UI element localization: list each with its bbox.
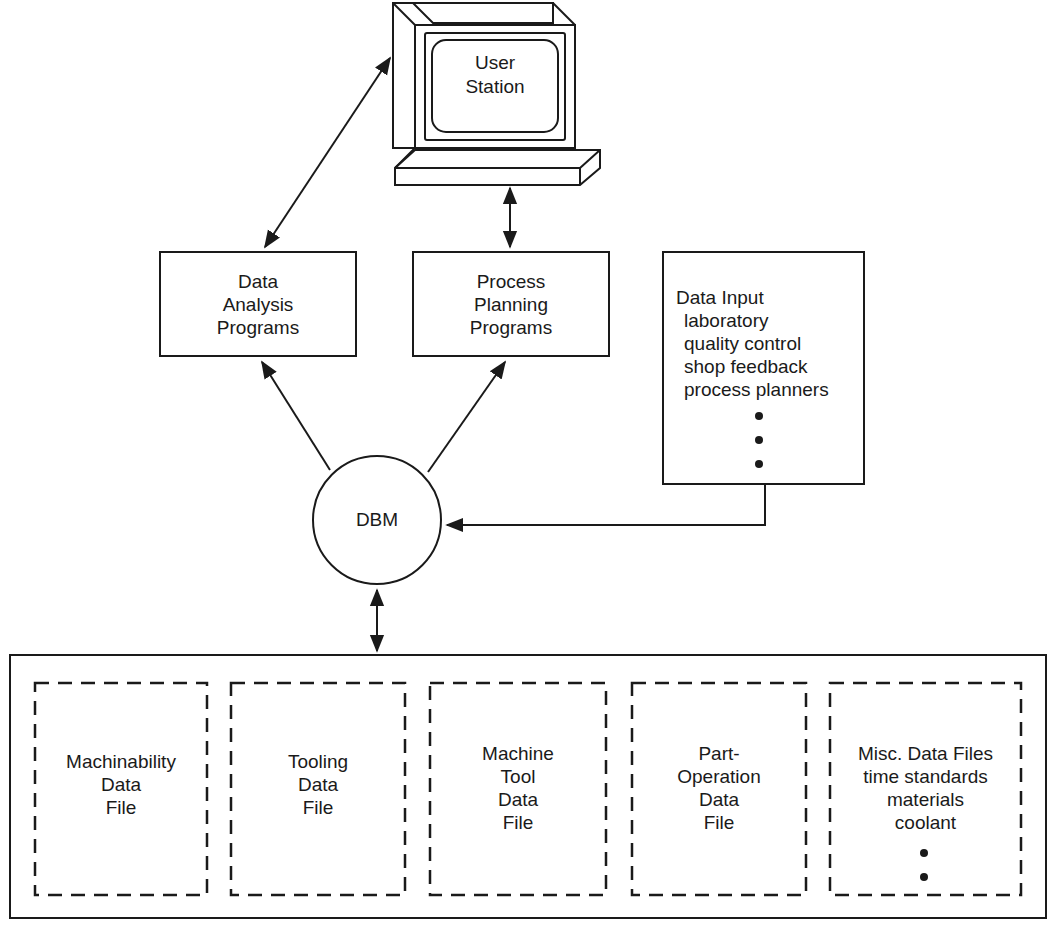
label-line: materials	[830, 788, 1021, 811]
arrow-dbm-to-planning	[428, 362, 505, 472]
machinability-file-label: Machinability Data File	[35, 750, 207, 819]
label-line: Data	[160, 270, 356, 293]
label-line: File	[632, 811, 806, 834]
label-line: User	[432, 51, 558, 75]
label-line: File	[35, 796, 207, 819]
label-line: Machine	[430, 742, 606, 765]
machine-tool-file-label: Machine Tool Data File	[430, 742, 606, 834]
label-line: File	[430, 811, 606, 834]
label-line: Data	[632, 788, 806, 811]
label-line: Tool	[430, 765, 606, 788]
label-line: Part-	[632, 742, 806, 765]
data-input-label: Data Input laboratory quality control sh…	[676, 286, 866, 401]
label-line: Programs	[413, 316, 609, 339]
arrow-analysis-to-station	[265, 58, 390, 247]
label-line: Tooling	[231, 750, 405, 773]
label-line: Analysis	[160, 293, 356, 316]
arrow-dbm-to-analysis	[262, 362, 330, 470]
label-line: Planning	[413, 293, 609, 316]
process-planning-label: Process Planning Programs	[413, 270, 609, 339]
misc-data-files-label: Misc. Data Files time standards material…	[830, 742, 1021, 834]
data-analysis-label: Data Analysis Programs	[160, 270, 356, 339]
label-line: Data	[35, 773, 207, 796]
label-line: Data	[231, 773, 405, 796]
data-input-item: process planners	[684, 378, 866, 401]
misc-ellipsis-dots-icon	[920, 849, 928, 881]
part-operation-file-label: Part- Operation Data File	[632, 742, 806, 834]
data-input-item: laboratory	[684, 309, 866, 332]
label-line: Machinability	[35, 750, 207, 773]
label-line: coolant	[830, 811, 1021, 834]
dbm-label: DBM	[313, 509, 441, 531]
tooling-file-label: Tooling Data File	[231, 750, 405, 819]
label-line: DBM	[313, 509, 441, 531]
data-input-item: quality control	[684, 332, 866, 355]
data-input-item: shop feedback	[684, 355, 866, 378]
ellipsis-dots-icon	[755, 412, 763, 468]
label-line: Process	[413, 270, 609, 293]
arrow-input-to-dbm	[447, 484, 765, 525]
label-line: File	[231, 796, 405, 819]
user-station-label: User Station	[432, 51, 558, 99]
label-line: Data	[430, 788, 606, 811]
label-line: Programs	[160, 316, 356, 339]
label-line: Station	[432, 75, 558, 99]
label-line: Operation	[632, 765, 806, 788]
data-input-title: Data Input	[676, 286, 866, 309]
label-line: Misc. Data Files	[830, 742, 1021, 765]
label-line: time standards	[830, 765, 1021, 788]
